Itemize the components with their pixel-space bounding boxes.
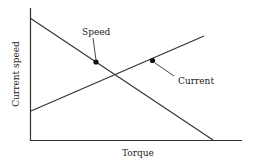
y-axis-label: Current speed [11, 41, 21, 107]
current-leader [155, 63, 174, 76]
current-marker [150, 58, 155, 63]
x-axis-label: Torque [122, 148, 154, 158]
current-label: Current [178, 76, 214, 86]
current-line [31, 36, 204, 111]
speed-label: Speed [82, 27, 111, 37]
speed-leader [93, 38, 96, 60]
torque-speed-diagram: Speed Current Torque Current speed [0, 0, 256, 164]
speed-marker [93, 59, 98, 64]
